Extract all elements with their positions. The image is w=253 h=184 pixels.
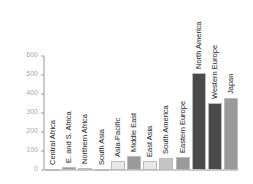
bar-chart: 0100200300400500600 Central AfricaE. and…	[0, 0, 253, 184]
bar-northern-africa	[78, 168, 92, 170]
y-tick-label: 600	[16, 51, 38, 58]
category-label: South Asia	[97, 129, 106, 165]
bar-middle-east	[127, 156, 141, 170]
category-label: Eastern Europe	[178, 101, 187, 153]
y-tick-label: 500	[16, 70, 38, 77]
y-tick-label: 100	[16, 146, 38, 153]
category-label: Asia-Pacific	[113, 118, 122, 157]
category-label: Japan	[226, 74, 235, 94]
bar-e-and-s-africa	[62, 167, 76, 170]
category-label: Northern Africa	[80, 114, 89, 164]
category-label: East Asia	[145, 126, 154, 157]
bar-eastern-europe	[176, 157, 190, 170]
bar-central-africa	[46, 169, 60, 171]
bar-south-asia	[95, 169, 109, 171]
bar-western-europe	[208, 103, 222, 170]
bar-asia-pacific	[111, 161, 125, 170]
category-label: E. and S. Africa	[64, 111, 73, 163]
category-label: Middle East	[129, 113, 138, 152]
category-label: North America	[194, 22, 203, 70]
y-tick-label: 300	[16, 108, 38, 115]
y-tick-label: 400	[16, 89, 38, 96]
category-label: South America	[161, 105, 170, 154]
category-label: Central Africa	[48, 120, 57, 165]
y-tick-label: 0	[16, 165, 38, 172]
bar-north-america	[192, 73, 206, 170]
bar-south-america	[159, 158, 173, 170]
y-tick-label: 200	[16, 127, 38, 134]
bar-east-asia	[143, 161, 157, 170]
bar-japan	[224, 98, 238, 170]
category-label: Western Europe	[210, 45, 219, 99]
